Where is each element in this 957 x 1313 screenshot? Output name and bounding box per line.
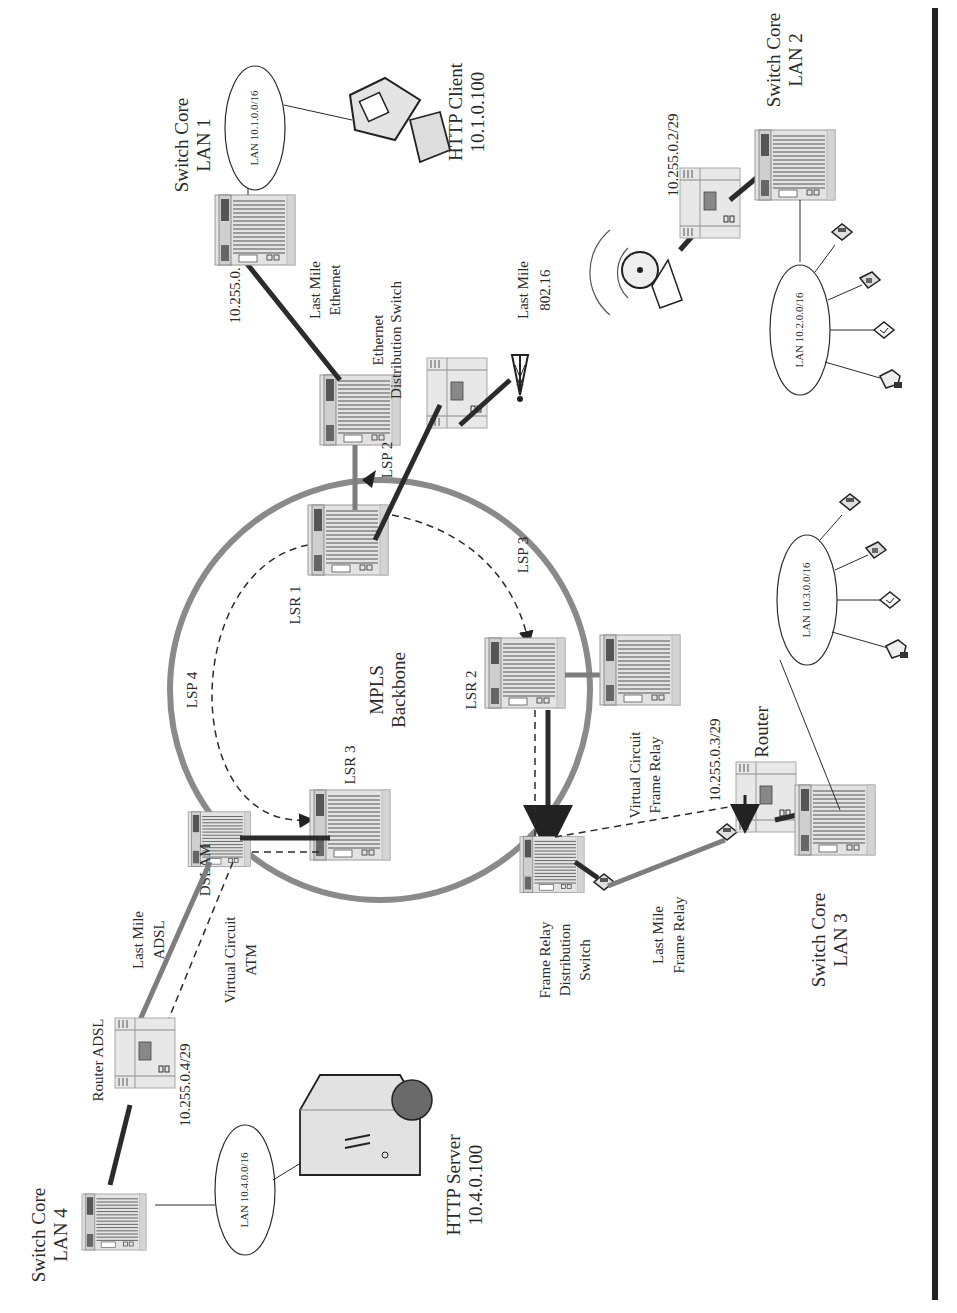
switch-core-lan4[interactable]	[82, 1194, 146, 1250]
switch-core-lan4-label-2: LAN 4	[50, 1208, 71, 1262]
lsp4-label: LSP 4	[184, 671, 200, 708]
switch-core-lan3-label-1: Switch Core	[808, 893, 829, 987]
link-lan1-client	[284, 105, 352, 120]
http-client-label-2: 10.1.0.100	[467, 72, 488, 153]
fax-icon[interactable]	[874, 322, 894, 338]
http-client-label-1: HTTP Client	[445, 62, 466, 161]
router-adsl-device[interactable]	[115, 1018, 175, 1088]
radio-tower-icon	[512, 355, 528, 402]
http-server-label-1: HTTP Server	[443, 1134, 464, 1236]
telephone-icon[interactable]	[860, 272, 880, 288]
link-lan2-phone	[828, 285, 862, 300]
vc-frame-relay-label-2: Frame Relay	[647, 736, 663, 814]
frdist-label-2: Distribution	[557, 923, 573, 996]
lan4-label: LAN 10.4.0.0/16	[238, 1152, 250, 1228]
lan2-label: LAN 10.2.0.0/16	[793, 292, 805, 368]
last-mile-fr-label-1: Last Mile	[650, 906, 666, 964]
csu-dsu-icon[interactable]	[717, 824, 737, 840]
last-mile-80216-label-1: Last Mile	[515, 261, 531, 319]
lsr3-device[interactable]	[310, 790, 390, 860]
link-last-mile-ethernet	[240, 255, 340, 380]
last-mile-adsl-label-2: ADSL	[151, 920, 167, 959]
fax-icon[interactable]	[880, 592, 900, 608]
router-adsl-label: Router ADSL	[90, 1019, 106, 1102]
switch-core-lan2[interactable]	[755, 130, 835, 200]
lsr3-label: LSR 3	[342, 746, 358, 785]
vc-atm-label-1: Virtual Circuit	[222, 916, 238, 1004]
router-label: Router	[751, 705, 772, 757]
switch-core-lan3[interactable]	[795, 785, 875, 855]
vc-atm-label-2: ATM	[243, 944, 259, 976]
lan1-label: LAN 10.1.0.0/16	[248, 90, 260, 166]
web-server-icon[interactable]	[300, 1075, 432, 1175]
lsr2-label: LSR 2	[463, 671, 479, 710]
switch-core-lan2-label-2: LAN 2	[785, 33, 806, 86]
switch-core-lan1-label-1: Switch Core	[171, 98, 192, 192]
lsp3-path	[392, 515, 528, 640]
last-mile-ethernet-label-2: Ethernet	[327, 264, 343, 316]
last-mile-adsl-label-1: Last Mile	[130, 911, 146, 969]
switch-core-lan4-label-1: Switch Core	[28, 1188, 49, 1282]
link-lan3-modem	[820, 515, 842, 540]
ethernet-dist-label-2: Distribution Switch	[388, 281, 404, 399]
frdist-label-1: Frame Relay	[537, 921, 553, 999]
lan3-label: LAN 10.3.0.0/16	[800, 562, 812, 638]
link-lan3-phone	[835, 555, 868, 570]
address-10-255-0-2: 10.255.0.2/29	[665, 114, 681, 197]
switch-core-lan1-label-2: LAN 1	[193, 118, 214, 171]
lsp2-arrow-icon	[362, 470, 376, 488]
last-mile-80216-label-2: 802.16	[537, 269, 553, 311]
switch-core-lan3-label-2: LAN 3	[830, 913, 851, 966]
address-10-255-0-3: 10.255.0.3/29	[707, 719, 723, 802]
network-diagram: MPLS Backbone LSP 4 LSP 3 LSR 1 LSR 2 LS…	[0, 0, 957, 1313]
printer-icon[interactable]	[886, 640, 908, 658]
desktop-computer-icon[interactable]	[350, 78, 450, 162]
backbone-label-2: Backbone	[388, 652, 409, 728]
last-mile-ethernet-label-1: Last Mile	[307, 261, 323, 319]
satellite-dish-icon[interactable]	[622, 252, 682, 308]
lsr1-label: LSR 1	[287, 586, 303, 625]
wireless-wave-icon	[590, 230, 610, 315]
vc-frame-relay-label-1: Virtual Circuit	[627, 731, 643, 819]
frdist-label-3: Switch	[577, 939, 593, 981]
vc-frame-relay-device[interactable]	[600, 635, 680, 705]
backbone-label-1: MPLS	[366, 665, 387, 715]
lsp3-label: LSP 3	[515, 537, 531, 574]
switch-core-lan2-label-1: Switch Core	[763, 13, 784, 107]
address-10-255-0-4: 10.255.0.4/29	[177, 1044, 193, 1127]
last-mile-fr-label-2: Frame Relay	[671, 896, 687, 974]
lsp2-label: LSP 2	[379, 442, 395, 479]
link-lan2-printer	[825, 362, 880, 378]
ethernet-dist-label-1: Ethernet	[370, 314, 386, 366]
link-router-adsl-lan4	[110, 1105, 130, 1185]
modem-icon[interactable]	[832, 224, 852, 240]
lsr2-device[interactable]	[485, 638, 565, 708]
telephone-icon[interactable]	[866, 542, 886, 558]
lan2-router[interactable]	[680, 168, 740, 238]
printer-icon[interactable]	[880, 370, 902, 388]
link-lan3-printer	[832, 632, 888, 648]
link-lan2-modem	[815, 245, 835, 272]
switch-core-lan1[interactable]	[215, 195, 295, 265]
link-last-mile-frame-relay	[608, 840, 725, 886]
http-server-label-2: 10.4.0.100	[465, 1145, 486, 1226]
modem-icon[interactable]	[840, 494, 860, 510]
